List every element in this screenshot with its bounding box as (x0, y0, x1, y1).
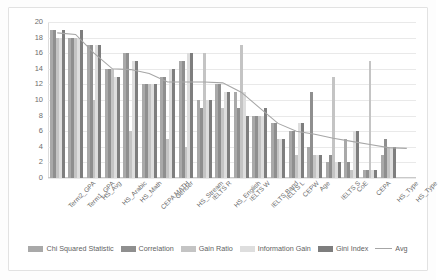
bar-group (326, 22, 341, 178)
y-axis-tick-label: 10 (35, 96, 43, 104)
bar-group (381, 22, 396, 178)
legend-color-swatch (121, 246, 136, 252)
legend-line-swatch (375, 248, 392, 249)
y-axis-tick-label: 6 (39, 127, 43, 135)
bar (246, 116, 249, 178)
bar (374, 170, 377, 178)
legend-color-swatch (181, 246, 196, 252)
bar-groups (48, 22, 416, 178)
bar-group (289, 22, 304, 178)
y-axis-tick-label: 2 (39, 159, 43, 167)
bar (209, 100, 212, 178)
bar-group (234, 22, 249, 178)
y-axis-tick-label: 8 (39, 112, 43, 120)
bar (282, 139, 285, 178)
legend-label: Avg (395, 244, 407, 253)
legend-item[interactable]: Information Gain (240, 244, 311, 253)
bar-group (399, 22, 414, 178)
y-axis-tick-label: 12 (35, 81, 43, 89)
legend-label: Gini Index (336, 244, 368, 253)
bar (172, 69, 175, 178)
bar-group (123, 22, 138, 178)
bar-group (197, 22, 212, 178)
x-axis-tick-label: Gender (174, 180, 194, 200)
bar (301, 123, 304, 178)
legend-color-swatch (240, 246, 255, 252)
bar (338, 162, 341, 178)
bar (154, 84, 157, 178)
legend-item[interactable]: Chi Squared Statistic (28, 244, 113, 253)
bar (369, 61, 372, 178)
legend-color-swatch (318, 246, 333, 252)
bar-group (160, 22, 175, 178)
x-axis-tick-label: Age (318, 180, 331, 193)
legend-item[interactable]: Gain Ratio (181, 244, 233, 253)
bar-group (179, 22, 194, 178)
bar-group (363, 22, 378, 178)
bar (117, 77, 120, 178)
bar-group (68, 22, 83, 178)
y-axis-tick-label: 16 (35, 49, 43, 57)
bar (80, 30, 83, 178)
y-axis-tick-label: 0 (39, 174, 43, 182)
chart-plot-area: 02468101214161820 (48, 22, 416, 178)
bar-group (215, 22, 230, 178)
bar-group (252, 22, 267, 178)
y-axis-tick-label: 18 (35, 34, 43, 42)
x-axis-tick-label: HS_Avg (101, 180, 123, 202)
bar-group (344, 22, 359, 178)
bar-group (50, 22, 65, 178)
legend-item[interactable]: Correlation (121, 244, 174, 253)
bar (190, 53, 193, 178)
legend-label: Gain Ratio (199, 244, 233, 253)
bar-group (307, 22, 322, 178)
legend-label: Chi Squared Statistic (46, 244, 113, 253)
bar-group (105, 22, 120, 178)
bar-group (271, 22, 286, 178)
legend-item[interactable]: Gini Index (318, 244, 368, 253)
x-axis-tick-label: CEPA (375, 180, 392, 197)
chart-legend: Chi Squared StatisticCorrelationGain Rat… (8, 244, 428, 253)
x-axis-labels: Term2_GPATerm1_GPAHS_AvgHS_ArabicHS_Math… (48, 180, 416, 242)
y-axis-tick-label: 20 (35, 18, 43, 26)
bar-group (87, 22, 102, 178)
bar (393, 147, 396, 178)
legend-label: Correlation (139, 244, 174, 253)
bar (227, 92, 230, 178)
bar (264, 108, 267, 178)
legend-item[interactable]: Avg (375, 244, 407, 253)
gridline (48, 178, 416, 179)
bar (98, 45, 101, 178)
bar (135, 61, 138, 178)
bar (62, 30, 65, 178)
y-axis-tick-label: 14 (35, 65, 43, 73)
legend-label: Information Gain (258, 244, 311, 253)
bar (356, 131, 359, 178)
bar (319, 155, 322, 178)
y-axis-tick-label: 4 (39, 143, 43, 151)
legend-color-swatch (28, 246, 43, 252)
bar-group (142, 22, 157, 178)
